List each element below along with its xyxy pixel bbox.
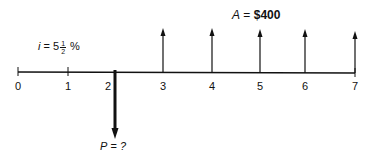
present-worth-label: P = ? — [100, 141, 126, 152]
period-label-0: 0 — [15, 80, 21, 92]
period-label-5: 5 — [257, 80, 263, 92]
cash-flow-diagram — [0, 0, 370, 159]
annuity-label: A = $400 — [232, 9, 280, 21]
period-label-1: 1 — [65, 80, 71, 92]
annuity-arrows — [161, 28, 358, 73]
interest-rate-label: i = 512 % — [38, 40, 80, 55]
period-label-4: 4 — [209, 80, 215, 92]
period-label-2: 2 — [105, 80, 111, 92]
arrow-down-icon — [114, 70, 117, 130]
period-label-7: 7 — [352, 80, 358, 92]
period-label-6: 6 — [302, 80, 308, 92]
present-worth-arrow — [112, 70, 119, 139]
period-label-3: 3 — [160, 80, 166, 92]
fraction: 12 — [60, 40, 66, 55]
